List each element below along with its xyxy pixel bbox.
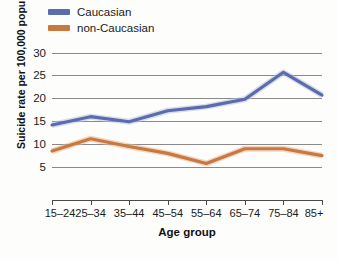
x-axis-tick (52, 200, 53, 205)
x-axis-tick (91, 200, 92, 205)
y-axis-tick-label: 10 (33, 138, 46, 150)
legend-item-caucasian: Caucasian (48, 5, 154, 18)
x-axis-tick-label: 15–24 (45, 207, 76, 219)
legend-label-caucasian: Caucasian (77, 6, 131, 18)
legend-swatch-caucasian (48, 9, 70, 15)
x-axis-tick-label: 85+ (305, 207, 324, 219)
x-axis-tick (283, 200, 284, 205)
data-lines (52, 48, 322, 190)
y-axis-tick-label: 20 (33, 92, 46, 104)
chart-legend: Caucasian non-Caucasian (48, 5, 154, 34)
series-line-caucasian (52, 72, 322, 125)
x-axis-tick (322, 200, 323, 205)
suicide-rate-line-chart: Caucasian non-Caucasian Suicide rate per… (0, 0, 338, 260)
y-axis-tick-label: 25 (33, 69, 46, 81)
y-axis-title: Suicide rate per 100,000 population (15, 0, 27, 149)
x-axis-tick-label: 55–64 (191, 207, 222, 219)
x-axis-tick-label: 65–74 (230, 207, 261, 219)
x-axis-tick-label: 45–54 (152, 207, 183, 219)
y-axis-tick-label: 15 (33, 115, 46, 127)
x-axis-tick (168, 200, 169, 205)
y-axis-tick-label: 5 (40, 161, 46, 173)
x-axis-tick (206, 200, 207, 205)
legend-item-non-caucasian: non-Caucasian (48, 21, 154, 34)
x-axis-tick (129, 200, 130, 205)
x-axis-tick-label: 75–84 (268, 207, 299, 219)
legend-label-non-caucasian: non-Caucasian (77, 22, 154, 34)
x-axis-tick (245, 200, 246, 205)
x-axis-tick-label: 35–44 (114, 207, 145, 219)
x-axis-tick-label: 25–34 (75, 207, 106, 219)
x-axis-title: Age group (52, 226, 322, 238)
y-axis-tick-label: 30 (33, 47, 46, 59)
legend-swatch-non-caucasian (48, 25, 70, 31)
plot-area: 51015202530 (52, 48, 322, 190)
x-axis-line (52, 200, 322, 201)
